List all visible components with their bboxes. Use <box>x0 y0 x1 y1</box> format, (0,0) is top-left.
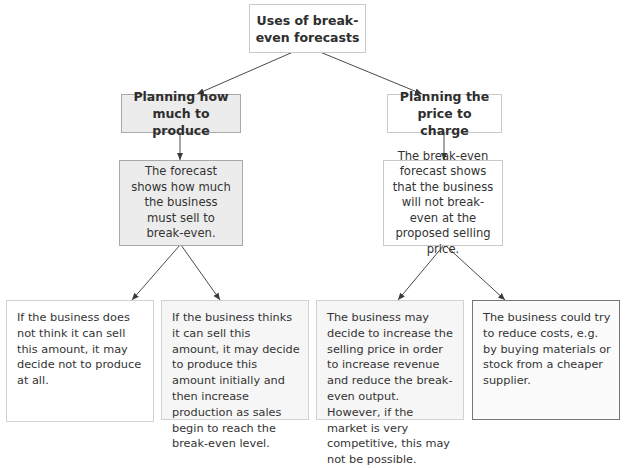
outcome-text: The business may decide to increase the … <box>327 310 455 468</box>
branch-label-price: Planning the price to charge <box>394 88 495 139</box>
outcome-text: If the business thinks it can sell this … <box>172 310 300 452</box>
finding-text-price: The break-even forecast shows that the b… <box>389 149 497 258</box>
outcome-node-no-produce: If the business does not think it can se… <box>6 300 154 422</box>
branch-node-produce: Planning how much to produce <box>121 94 241 133</box>
finding-node-price: The break-even forecast shows that the b… <box>383 160 503 246</box>
root-node: Uses of break-even forecasts <box>249 4 366 53</box>
finding-node-produce: The forecast shows how much the business… <box>119 160 243 246</box>
outcome-node-increase-price: The business may decide to increase the … <box>316 300 464 420</box>
outcome-text: If the business does not think it can se… <box>17 310 145 389</box>
outcome-node-produce-initially: If the business thinks it can sell this … <box>161 300 309 420</box>
root-label: Uses of break-even forecasts <box>250 12 365 46</box>
outcome-text: The business could try to reduce costs, … <box>483 310 611 389</box>
outcome-node-reduce-costs: The business could try to reduce costs, … <box>472 300 620 420</box>
branch-label-produce: Planning how much to produce <box>126 88 236 139</box>
branch-node-price: Planning the price to charge <box>387 94 502 133</box>
finding-text-produce: The forecast shows how much the business… <box>128 164 234 242</box>
